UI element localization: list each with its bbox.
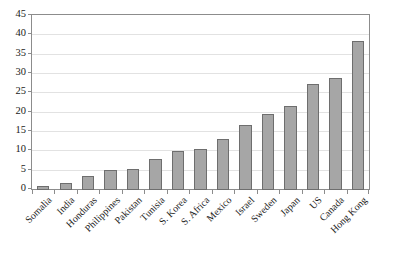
x-label-slot: Japan xyxy=(279,193,301,258)
x-label-slot: S. Africa xyxy=(189,193,211,258)
y-tick-label: 0 xyxy=(2,183,26,193)
bar[interactable] xyxy=(239,125,251,190)
bar-slot xyxy=(189,14,211,190)
bar[interactable] xyxy=(262,114,274,190)
bar[interactable] xyxy=(307,84,319,190)
bar[interactable] xyxy=(329,78,341,190)
bar-slot xyxy=(347,14,369,190)
x-label-slot: Sweden xyxy=(257,193,279,258)
bar-slot xyxy=(324,14,346,190)
bar[interactable] xyxy=(217,139,229,190)
y-tick-label: 25 xyxy=(2,86,26,96)
y-tick-label: 30 xyxy=(2,67,26,77)
bar[interactable] xyxy=(82,176,94,190)
bars-container xyxy=(31,14,370,190)
bar[interactable] xyxy=(104,170,116,190)
bar[interactable] xyxy=(127,169,139,190)
x-axis-labels: SomaliaIndiaHondurasPhilippinesPakistanT… xyxy=(31,193,370,258)
bar-slot xyxy=(54,14,76,190)
x-tick-label: US xyxy=(308,195,324,211)
x-label-slot: Pakistan xyxy=(122,193,144,258)
bar-slot xyxy=(212,14,234,190)
x-label-slot: Hong Kong xyxy=(347,193,369,258)
bar-slot xyxy=(99,14,121,190)
y-tick-label: 35 xyxy=(2,48,26,58)
bar-slot xyxy=(234,14,256,190)
bar-slot xyxy=(167,14,189,190)
x-label-slot: US xyxy=(302,193,324,258)
x-label-slot: Mexico xyxy=(212,193,234,258)
bar-slot xyxy=(122,14,144,190)
bar-slot xyxy=(279,14,301,190)
bar[interactable] xyxy=(172,151,184,190)
bar[interactable] xyxy=(284,106,296,190)
y-tick-label: 15 xyxy=(2,125,26,135)
bar-slot xyxy=(144,14,166,190)
y-tick-label: 20 xyxy=(2,106,26,116)
bar-chart: 051015202530354045 SomaliaIndiaHondurasP… xyxy=(0,0,394,258)
x-tick-label: Somalia xyxy=(24,195,54,225)
bar[interactable] xyxy=(352,41,364,190)
bar[interactable] xyxy=(60,183,72,190)
bar-slot xyxy=(257,14,279,190)
y-tick-label: 10 xyxy=(2,144,26,154)
x-label-slot: Israel xyxy=(234,193,256,258)
bar[interactable] xyxy=(194,149,206,190)
y-tick-label: 45 xyxy=(2,9,26,19)
y-tick-label: 40 xyxy=(2,28,26,38)
x-tick-label: Japan xyxy=(278,195,301,218)
bar-slot xyxy=(77,14,99,190)
bar-slot xyxy=(32,14,54,190)
y-tick-label: 5 xyxy=(2,164,26,174)
bar[interactable] xyxy=(149,159,161,190)
x-label-slot: Somalia xyxy=(32,193,54,258)
bar-slot xyxy=(302,14,324,190)
